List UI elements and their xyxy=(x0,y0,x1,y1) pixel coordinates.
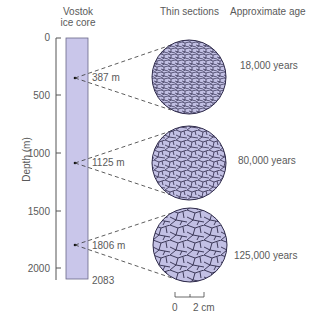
ice-core-column xyxy=(66,38,88,279)
sample-depth-1: 387 m xyxy=(92,72,120,83)
thin-section-large-grains xyxy=(151,206,231,286)
scale-bar xyxy=(175,292,204,297)
scale-end-label: 2 cm xyxy=(193,302,215,313)
sample-age-3: 125,000 years xyxy=(234,250,297,261)
depth-axis xyxy=(56,38,61,280)
thin-section-small-grains xyxy=(150,38,230,118)
sample-depth-3: 1806 m xyxy=(92,240,125,251)
sample-age-2: 80,000 years xyxy=(238,155,296,166)
scale-start-label: 0 xyxy=(172,302,178,313)
sample-depth-2: 1125 m xyxy=(92,157,125,168)
sample-age-1: 18,000 years xyxy=(240,60,298,71)
